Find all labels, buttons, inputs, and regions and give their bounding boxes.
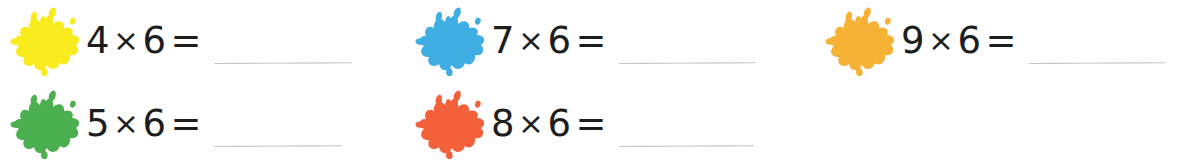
multiplicand: 4 <box>86 19 110 62</box>
paint-splat-yellow <box>10 6 84 76</box>
problem-grid: 4×6= 7×6= <box>0 0 1204 166</box>
equation-text: 9×6= <box>901 22 1017 59</box>
multiplication-worksheet: 4×6= 7×6= <box>0 0 1204 166</box>
problem-8x6: 8×6= <box>405 83 815 166</box>
problem-7x6: 7×6= <box>405 0 815 83</box>
equation-text: 5×6= <box>86 105 202 142</box>
answer-blank-line[interactable] <box>619 42 756 64</box>
multiplier: 6 <box>143 19 167 62</box>
paint-splat-green <box>10 89 84 159</box>
multiplier: 6 <box>143 102 167 145</box>
multiplicand: 9 <box>901 19 925 62</box>
problem-5x6: 5×6= <box>0 83 405 166</box>
paint-splat-blue <box>415 6 489 76</box>
multiplier: 6 <box>548 102 572 145</box>
equals-sign: = <box>982 19 1018 62</box>
problem-9x6: 9×6= <box>815 0 1204 83</box>
multiplicand: 8 <box>491 102 515 145</box>
answer-blank-line[interactable] <box>214 125 342 147</box>
multiplicand: 7 <box>491 19 515 62</box>
equation-text: 7×6= <box>491 22 607 59</box>
operator-times: × <box>110 105 142 141</box>
multiplier: 6 <box>958 19 982 62</box>
answer-blank-line[interactable] <box>619 125 754 147</box>
multiplier: 6 <box>548 19 572 62</box>
equation-text: 4×6= <box>86 22 202 59</box>
equals-sign: = <box>572 102 608 145</box>
answer-blank-line[interactable] <box>214 42 352 64</box>
operator-times: × <box>515 22 547 58</box>
equals-sign: = <box>572 19 608 62</box>
operator-times: × <box>110 22 142 58</box>
multiplicand: 5 <box>86 102 110 145</box>
paint-splat-amber <box>825 6 899 76</box>
operator-times: × <box>925 22 957 58</box>
answer-blank-line[interactable] <box>1029 42 1165 64</box>
equals-sign: = <box>167 102 203 145</box>
problem-4x6: 4×6= <box>0 0 405 83</box>
operator-times: × <box>515 105 547 141</box>
equation-text: 8×6= <box>491 105 607 142</box>
equals-sign: = <box>167 19 203 62</box>
paint-splat-orange <box>415 89 489 159</box>
